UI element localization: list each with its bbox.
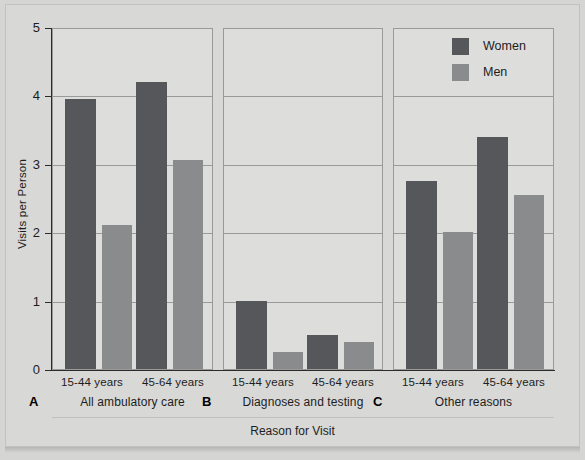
legend-row-women: Women (452, 36, 548, 62)
bar-b-women-45-64 (307, 335, 338, 369)
panel-caption-a: All ambulatory care (52, 395, 213, 409)
panel-b-bars (224, 29, 382, 369)
bar-a-men-45-64 (173, 160, 203, 369)
legend-swatch-women-icon (452, 38, 469, 55)
y-tick-label-2: 2 (22, 226, 40, 239)
bar-c-men-15-44 (443, 232, 473, 369)
y-tick-3 (45, 165, 51, 166)
bar-b-men-45-64 (344, 342, 374, 369)
group-label-a-1: 15-44 years (52, 376, 132, 388)
y-tick-label-4: 4 (22, 89, 40, 102)
y-tick-5 (45, 28, 51, 29)
legend-label-men: Men (483, 65, 507, 79)
chart-panel-a (52, 28, 213, 370)
y-tick-2 (45, 233, 51, 234)
group-label-b-1: 15-44 years (223, 376, 303, 388)
group-label-b-2: 45-64 years (303, 376, 383, 388)
chart-plot-area: Visits per Person 5 4 3 2 1 0 (0, 0, 585, 460)
chart-legend: Women Men (452, 36, 548, 88)
legend-row-men: Men (452, 62, 548, 88)
bar-c-women-15-44 (406, 181, 437, 369)
y-tick-label-5: 5 (22, 21, 40, 34)
bar-b-men-15-44 (273, 352, 303, 369)
bar-b-women-15-44 (236, 301, 267, 369)
y-tick-label-3: 3 (22, 158, 40, 171)
y-tick-4 (45, 96, 51, 97)
chart-panel-b (223, 28, 383, 370)
legend-label-women: Women (483, 39, 526, 53)
panel-caption-c: Other reasons (393, 395, 554, 409)
panel-letter-b: B (202, 394, 211, 409)
y-axis-title: Visits per Person (16, 134, 28, 274)
bar-c-men-45-64 (514, 195, 544, 369)
caption-divider (52, 417, 554, 418)
panel-caption-b: Diagnoses and testing (223, 395, 383, 409)
y-tick-label-1: 1 (22, 295, 40, 308)
panel-letter-c: C (373, 394, 382, 409)
panel-a-bars (53, 29, 212, 369)
legend-swatch-men-icon (452, 64, 469, 81)
panel-letter-a: A (29, 394, 38, 409)
group-label-c-2: 45-64 years (474, 376, 554, 388)
x-axis-title: Reason for Visit (0, 424, 585, 438)
y-tick-1 (45, 302, 51, 303)
bar-a-women-45-64 (136, 82, 167, 369)
y-tick-label-0: 0 (22, 363, 40, 376)
x-axis-line (51, 370, 555, 371)
figure-container: Visits per Person 5 4 3 2 1 0 (0, 0, 585, 460)
group-label-c-1: 15-44 years (393, 376, 473, 388)
bar-a-men-15-44 (102, 225, 132, 369)
bar-a-women-15-44 (65, 99, 96, 369)
bar-c-women-45-64 (477, 137, 508, 369)
group-label-a-2: 45-64 years (133, 376, 213, 388)
